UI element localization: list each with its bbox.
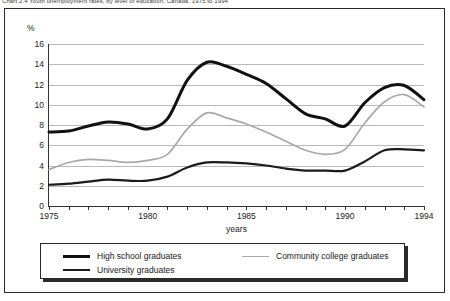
x-tick-mark — [246, 206, 247, 210]
x-tick-label: 1994 — [415, 212, 434, 221]
y-tick-label: 8 — [39, 121, 44, 130]
series-line — [49, 149, 424, 185]
x-tick-mark — [306, 206, 307, 210]
chart-frame: % 0246810121416 19751980198519901994 yea… — [4, 8, 445, 293]
x-tick-label: 1975 — [40, 212, 59, 221]
y-tick-label: 16 — [35, 40, 44, 49]
x-tick-mark — [325, 206, 326, 210]
legend-item-university: University graduates — [63, 265, 174, 275]
series-lines — [49, 44, 424, 206]
x-tick-mark — [266, 206, 267, 210]
y-tick-label: 4 — [39, 161, 44, 170]
y-tick-label: 10 — [35, 101, 44, 110]
x-tick-mark — [88, 206, 89, 210]
y-axis-unit-label: % — [27, 23, 35, 33]
legend-label-high-school: High school graduates — [97, 251, 182, 261]
x-tick-mark — [365, 206, 366, 210]
x-tick-label: 1985 — [237, 212, 256, 221]
x-tick-mark — [424, 206, 425, 210]
y-tick-label: 14 — [35, 60, 44, 69]
y-tick-label: 0 — [39, 202, 44, 211]
y-tick-label: 6 — [39, 141, 44, 150]
legend-label-community-college: Community college graduates — [276, 251, 388, 261]
y-tick-label: 12 — [35, 80, 44, 89]
x-tick-mark — [69, 206, 70, 210]
legend-swatch-high-school — [63, 255, 90, 258]
x-tick-label: 1990 — [336, 212, 355, 221]
x-tick-mark — [128, 206, 129, 210]
x-tick-mark — [345, 206, 346, 210]
x-tick-mark — [227, 206, 228, 210]
top-caption: Chart 2.4 Youth unemployment rates, by l… — [0, 0, 450, 7]
x-axis-title: years — [49, 224, 424, 234]
plot-area: 0246810121416 19751980198519901994 years — [48, 44, 424, 207]
x-tick-mark — [187, 206, 188, 210]
chart-legend: High school graduates Community college … — [40, 243, 405, 279]
chart-page: Chart 2.4 Youth unemployment rates, by l… — [0, 0, 450, 301]
legend-swatch-university — [63, 269, 90, 271]
series-line — [49, 95, 424, 170]
x-tick-mark — [167, 206, 168, 210]
legend-item-high-school: High school graduates — [63, 251, 182, 261]
x-tick-mark — [286, 206, 287, 210]
y-tick-label: 2 — [39, 182, 44, 191]
x-tick-mark — [207, 206, 208, 210]
x-tick-label: 1980 — [138, 212, 157, 221]
legend-swatch-community-college — [242, 256, 269, 257]
x-tick-mark — [49, 206, 50, 210]
x-tick-mark — [385, 206, 386, 210]
legend-item-community-college: Community college graduates — [242, 251, 388, 261]
x-tick-mark — [108, 206, 109, 210]
legend-label-university: University graduates — [97, 265, 174, 275]
x-tick-mark — [404, 206, 405, 210]
top-caption-text: Chart 2.4 Youth unemployment rates, by l… — [0, 0, 450, 5]
x-tick-mark — [148, 206, 149, 210]
